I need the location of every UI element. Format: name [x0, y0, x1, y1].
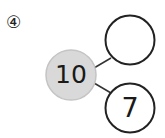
part-bottom-value: 7 [105, 93, 155, 123]
whole-value: 10 [46, 61, 96, 89]
connector-bottom [94, 83, 111, 93]
part-circle-top[interactable] [106, 16, 155, 65]
connector-top [94, 58, 111, 68]
problem-number: ④ [6, 14, 21, 31]
